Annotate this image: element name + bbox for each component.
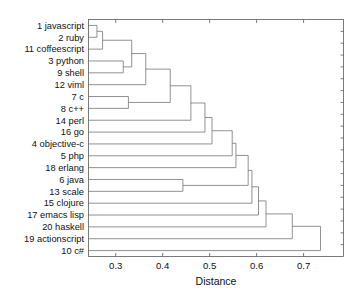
leaf-label: 9 shell xyxy=(57,68,84,78)
dendrogram-figure: 1 javascript2 ruby11 coffeescript3 pytho… xyxy=(0,0,353,299)
x-tick-label: 0.5 xyxy=(203,260,216,271)
leaf-label: 11 coffeescript xyxy=(24,44,84,54)
leaf-label: 10 c# xyxy=(61,246,85,256)
leaf-label: 20 haskell xyxy=(42,222,84,232)
leaf-label: 18 erlang xyxy=(45,163,84,173)
leaf-label: 17 emacs lisp xyxy=(27,210,84,220)
leaf-label: 5 php xyxy=(61,151,84,161)
leaf-label: 2 ruby xyxy=(58,33,84,43)
leaf-label: 8 c++ xyxy=(61,104,84,114)
leaf-label: 3 python xyxy=(48,56,84,66)
dendrogram-canvas: 1 javascript2 ruby11 coffeescript3 pytho… xyxy=(0,0,353,299)
leaf-label: 14 perl xyxy=(56,116,84,126)
x-tick-label: 0.7 xyxy=(297,260,310,271)
leaf-label: 15 clojure xyxy=(44,198,84,208)
leaf-label: 12 viml xyxy=(55,80,84,90)
x-tick-label: 0.3 xyxy=(109,260,122,271)
leaf-label: 4 objective-c xyxy=(32,139,85,149)
leaf-label: 1 javascript xyxy=(37,21,84,31)
x-tick-label: 0.4 xyxy=(156,260,170,271)
leaf-label: 16 go xyxy=(61,127,84,137)
x-axis-title: Distance xyxy=(196,275,237,287)
leaf-label: 13 scale xyxy=(49,187,84,197)
leaf-label: 7 c xyxy=(72,92,85,102)
x-tick-label: 0.6 xyxy=(250,260,263,271)
leaf-label: 19 actionscript xyxy=(24,234,84,244)
leaf-label: 6 java xyxy=(59,175,85,185)
